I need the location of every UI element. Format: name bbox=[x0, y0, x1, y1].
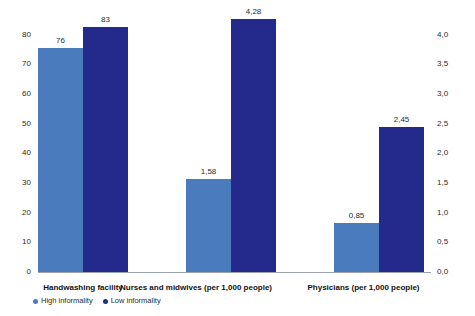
category-label-physicians: Physicians (per 1,000 people) bbox=[296, 283, 431, 292]
left-axis-tick-50: 50 bbox=[22, 120, 31, 128]
left-axis-tick-0: 0 bbox=[27, 268, 31, 276]
bar-nurses-high-informality bbox=[186, 179, 231, 273]
right-axis-tick-2-5: 2,5 bbox=[437, 120, 448, 128]
legend-dot-low-informality-icon bbox=[103, 299, 108, 304]
legend-label-low-informality: Low informality bbox=[111, 297, 161, 305]
right-value-axis: 4,0 3,5 3,0 2,5 2,0 1,5 1,0 0,5 0,0 bbox=[437, 0, 475, 316]
right-axis-tick-3-5: 3,5 bbox=[437, 60, 448, 68]
legend-item-low-informality[interactable]: Low informality bbox=[103, 297, 161, 305]
right-axis-tick-2-0: 2,0 bbox=[437, 149, 448, 157]
left-axis-tick-10: 10 bbox=[22, 238, 31, 246]
bar-handwashing-low-informality bbox=[83, 27, 128, 273]
bar-physicians-high-informality bbox=[334, 223, 379, 273]
bar-handwashing-high-informality bbox=[38, 48, 83, 273]
bar-value-physicians-high-informality: 0,85 bbox=[334, 212, 379, 220]
axis-baseline bbox=[38, 272, 431, 273]
left-axis-tick-80: 80 bbox=[22, 31, 31, 39]
left-axis-tick-40: 40 bbox=[22, 149, 31, 157]
right-axis-tick-4-0: 4,0 bbox=[437, 31, 448, 39]
category-label-nurses-and-midwives: Nurses and midwives (per 1,000 people) bbox=[116, 283, 276, 292]
legend-label-high-informality: High informality bbox=[41, 297, 93, 305]
legend-dot-high-informality-icon bbox=[33, 299, 38, 304]
bar-physicians-low-informality bbox=[379, 127, 424, 273]
right-axis-tick-0-5: 0,5 bbox=[437, 238, 448, 246]
bar-value-handwashing-low-informality: 83 bbox=[83, 16, 128, 24]
left-axis-tick-20: 20 bbox=[22, 209, 31, 217]
bar-value-handwashing-high-informality: 76 bbox=[38, 37, 83, 45]
bar-nurses-low-informality bbox=[231, 19, 276, 273]
right-axis-tick-3-0: 3,0 bbox=[437, 90, 448, 98]
chart-legend: High informality Low informality bbox=[33, 297, 161, 305]
left-value-axis: 80 70 60 50 40 30 20 10 0 bbox=[0, 0, 31, 316]
bar-value-nurses-high-informality: 1,58 bbox=[186, 168, 231, 176]
category-label-handwashing-facility: Handwashing facility bbox=[38, 283, 128, 292]
left-axis-tick-60: 60 bbox=[22, 90, 31, 98]
bar-chart: 80 70 60 50 40 30 20 10 0 4,0 3,5 3,0 2,… bbox=[0, 0, 475, 316]
plot-area: 76 83 1,58 4,28 0,85 2,45 bbox=[38, 12, 428, 273]
right-axis-tick-1-0: 1,0 bbox=[437, 209, 448, 217]
legend-item-high-informality[interactable]: High informality bbox=[33, 297, 93, 305]
left-axis-tick-30: 30 bbox=[22, 179, 31, 187]
bar-value-nurses-low-informality: 4,28 bbox=[231, 8, 276, 16]
bar-value-physicians-low-informality: 2,45 bbox=[379, 116, 424, 124]
left-axis-tick-70: 70 bbox=[22, 60, 31, 68]
right-axis-tick-1-5: 1,5 bbox=[437, 179, 448, 187]
right-axis-tick-0-0: 0,0 bbox=[437, 268, 448, 276]
